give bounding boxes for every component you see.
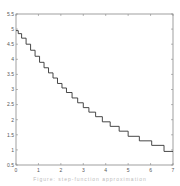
x-tick-label: 4 bbox=[104, 167, 107, 173]
y-tick-label: 5.5 bbox=[7, 11, 14, 17]
x-tick-label: 5 bbox=[127, 167, 130, 173]
y-tick-label: 3 bbox=[11, 86, 14, 92]
y-tick-label: 2.5 bbox=[7, 101, 14, 107]
y-tick-label: 4.5 bbox=[7, 41, 14, 47]
x-tick-label: 2 bbox=[59, 167, 62, 173]
figure-caption: Figure: step-function approximation bbox=[0, 176, 180, 182]
step-chart: 0.511.522.533.544.555.5 01234567 bbox=[0, 0, 180, 186]
y-tick-label: 1.5 bbox=[7, 132, 14, 138]
x-tick-label: 1 bbox=[37, 167, 40, 173]
y-tick-label: 0.5 bbox=[7, 162, 14, 168]
x-tick-label: 6 bbox=[149, 167, 152, 173]
plot-frame bbox=[16, 14, 173, 165]
y-tick-label: 1 bbox=[11, 147, 14, 153]
y-tick-label: 4 bbox=[11, 56, 14, 62]
x-tick-label: 7 bbox=[172, 167, 175, 173]
y-tick-label: 5 bbox=[11, 26, 14, 32]
x-tick-label: 3 bbox=[82, 167, 85, 173]
x-tick-label: 0 bbox=[15, 167, 18, 173]
y-tick-label: 3.5 bbox=[7, 71, 14, 77]
y-tick-label: 2 bbox=[11, 117, 14, 123]
